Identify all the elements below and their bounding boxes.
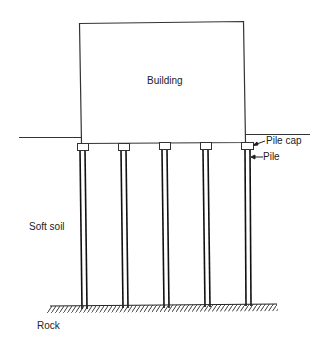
pile-cap-label: Pile cap [266,136,302,146]
building-label: Building [147,76,183,86]
pile-label: Pile [263,152,280,162]
rock-layer [45,304,278,313]
pile-foundation-diagram [0,0,324,349]
piles [80,150,251,309]
soft-soil-label: Soft soil [29,222,65,232]
rock-label: Rock [37,321,60,331]
